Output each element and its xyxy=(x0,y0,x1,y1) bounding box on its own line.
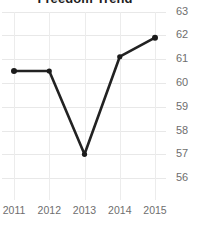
y-axis-tick-label: 60 xyxy=(176,77,198,88)
x-axis-tick-label: 2015 xyxy=(137,205,173,216)
plot-area: 6362616059585756 20112012201320142015 xyxy=(0,0,199,227)
data-point-marker xyxy=(152,35,158,41)
y-axis-tick-label: 62 xyxy=(176,29,198,40)
data-point-markers xyxy=(11,35,158,157)
data-point-marker xyxy=(117,54,122,59)
y-axis-tick-label: 63 xyxy=(176,6,198,17)
x-axis-tick-label: 2011 xyxy=(0,205,32,216)
y-axis-tick-label: 59 xyxy=(176,101,198,112)
y-axis-tick-label: 58 xyxy=(176,125,198,136)
x-axis-tick-label: 2012 xyxy=(31,205,67,216)
x-axis-tick-label: 2013 xyxy=(67,205,103,216)
x-axis-tick-label: 2014 xyxy=(102,205,138,216)
y-axis-tick-label: 56 xyxy=(176,172,198,183)
line-series-svg xyxy=(0,0,199,227)
y-axis-tick-label: 61 xyxy=(176,53,198,64)
data-point-marker xyxy=(47,68,52,73)
data-point-marker xyxy=(82,152,87,157)
data-point-marker xyxy=(11,68,17,74)
chart-container: Freedom Trend 6362616059585756 201120122… xyxy=(0,0,199,227)
line-series-freedom xyxy=(14,38,155,155)
y-axis-tick-label: 57 xyxy=(176,148,198,159)
